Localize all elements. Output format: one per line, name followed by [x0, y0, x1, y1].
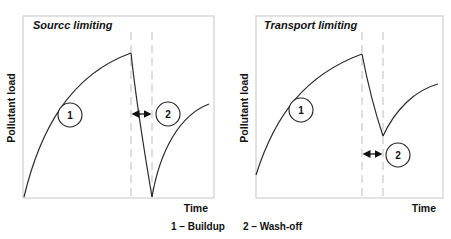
panel-title: Sourcc limiting — [33, 19, 113, 31]
plot-frame — [23, 16, 214, 198]
washoff-curve — [362, 54, 383, 136]
legend-washoff: 2 – Wash-off — [243, 221, 303, 232]
y-axis-label: Pollutant load — [238, 73, 250, 142]
x-axis-label: Time — [184, 202, 208, 214]
rebuild-curve — [383, 84, 438, 136]
washoff-curve — [131, 53, 152, 197]
y-axis-label: Pollutant load — [5, 73, 17, 142]
marker-label: 1 — [67, 110, 73, 121]
panel-transport-limiting: Transport limiting 1 2 Pollutant load Ti… — [238, 16, 443, 214]
marker-label: 2 — [165, 109, 171, 120]
plot-frame — [256, 16, 443, 198]
marker-label: 2 — [395, 150, 401, 161]
x-axis-label: Time — [412, 202, 436, 214]
panel-source-limiting: Sourcc limiting 1 2 Pollutant load Time — [5, 16, 214, 214]
diagram-canvas: Sourcc limiting 1 2 Pollutant load Time … — [0, 0, 451, 239]
legend: 1 – Buildup 2 – Wash-off — [171, 221, 303, 232]
panel-title: Transport limiting — [264, 19, 358, 31]
legend-buildup: 1 – Buildup — [171, 221, 225, 232]
marker-label: 1 — [298, 105, 304, 116]
